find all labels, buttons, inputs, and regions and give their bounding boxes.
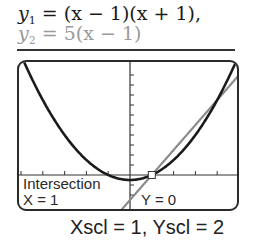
y2-var: y — [18, 22, 29, 44]
equation-y2: y2 = 5(x − 1) — [18, 23, 141, 51]
y1-var: y — [18, 2, 29, 24]
calculator-screen: Intersection X = 1 Y = 0 — [17, 60, 239, 211]
y2-rhs: = 5(x − 1) — [36, 22, 142, 44]
divider-rule — [17, 49, 235, 51]
scale-caption: Xscl = 1, Yscl = 2 — [70, 216, 224, 239]
y2-sub: 2 — [29, 34, 36, 47]
y-value-label: Y = 0 — [141, 192, 176, 208]
y1-rhs: = (x − 1)(x + 1), — [36, 2, 201, 24]
x-value-label: X = 1 — [23, 192, 58, 208]
intersection-label: Intersection — [23, 176, 101, 192]
